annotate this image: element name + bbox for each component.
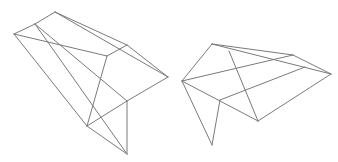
edge-CD <box>55 12 127 45</box>
edge-QV <box>182 81 212 145</box>
edge-PR <box>212 44 293 55</box>
edge-QR <box>182 55 293 81</box>
wireframe-left <box>14 12 168 154</box>
edge-TV <box>212 100 220 145</box>
edge-AB <box>14 24 35 34</box>
edge-TW <box>220 67 305 100</box>
wireframe-diagram <box>0 0 338 162</box>
edge-DE <box>127 45 168 77</box>
edge-AH <box>14 34 87 126</box>
edge-XU <box>229 51 258 121</box>
wireframe-right <box>182 44 331 145</box>
edge-HI <box>87 126 127 154</box>
edge-DF <box>107 45 127 56</box>
edge-EG <box>127 77 168 101</box>
edge-CE <box>55 12 168 77</box>
edge-RS <box>293 55 331 74</box>
edge-BC <box>35 12 55 24</box>
